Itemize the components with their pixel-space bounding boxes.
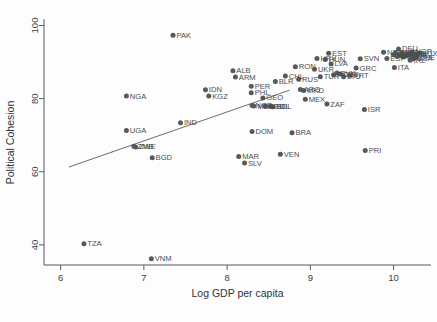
data-point-label: BGD — [156, 153, 173, 162]
data-point — [363, 148, 368, 153]
data-point — [242, 160, 247, 165]
plot-area: 406080100678910 TZAVNMNGAUGAZMBZWEBGDPAK… — [0, 0, 437, 322]
data-point-label: RUS — [302, 75, 318, 84]
data-point-label: PRI — [369, 146, 382, 155]
data-point — [318, 74, 323, 79]
data-point-label: MEX — [309, 95, 325, 104]
data-point-label: VNM — [155, 254, 172, 263]
y-tick-label: 60 — [30, 166, 41, 177]
data-point — [249, 90, 254, 95]
data-point-label: BOL — [276, 102, 291, 111]
data-point-label: EST — [332, 49, 347, 58]
x-tick-label: 9 — [308, 272, 313, 283]
x-tick-label: 6 — [58, 272, 63, 283]
data-point-label: RON — [299, 62, 316, 71]
data-point-label: DOM — [255, 127, 273, 136]
data-point-label: KGZ — [212, 92, 228, 101]
data-point — [81, 241, 86, 246]
data-point-label: IND — [184, 118, 198, 127]
data-point — [124, 94, 129, 99]
scatter-chart: 406080100678910 TZAVNMNGAUGAZMBZWEBGDPAK… — [0, 0, 437, 322]
data-point-label: ISR — [368, 105, 381, 114]
data-point-label: NGA — [130, 92, 147, 101]
data-point — [171, 33, 176, 38]
data-point — [381, 50, 386, 55]
data-point-label: VEN — [284, 150, 300, 159]
point-labels-group: TZAVNMNGAUGAZMBZWEBGDPAKINDIDNKGZALBARMM… — [87, 31, 437, 263]
data-point-label: ZWE — [139, 142, 156, 151]
data-point — [358, 56, 363, 61]
data-point — [150, 155, 155, 160]
data-point-label: LVA — [335, 59, 349, 68]
data-point — [314, 56, 319, 61]
x-axis-title: Log GDP per capita — [191, 287, 283, 299]
data-point — [203, 87, 208, 92]
data-point — [303, 97, 308, 102]
data-point-label: PAK — [176, 31, 191, 40]
data-point-label: SLV — [248, 159, 263, 168]
y-tick-label: 80 — [30, 93, 41, 104]
data-point — [278, 152, 283, 157]
data-point — [290, 130, 295, 135]
data-point — [250, 129, 255, 134]
data-point — [230, 68, 235, 73]
x-tick-label: 8 — [224, 272, 229, 283]
data-point — [362, 107, 367, 112]
y-axis-title: Political Cohesion — [4, 101, 16, 185]
data-point — [293, 64, 298, 69]
x-tick-label: 10 — [388, 272, 399, 283]
data-point — [392, 65, 397, 70]
data-point-label: ZAF — [330, 100, 345, 109]
data-point — [178, 120, 183, 125]
data-point-label: ARM — [239, 73, 256, 82]
data-point-label: ITA — [398, 63, 410, 72]
data-point-label: MKD — [307, 86, 324, 95]
data-point-label: BRA — [295, 128, 312, 137]
data-point-label: TZA — [87, 239, 102, 248]
data-point — [236, 154, 241, 159]
data-point — [324, 102, 329, 107]
data-point-label: UGA — [130, 126, 147, 135]
data-point — [273, 79, 278, 84]
data-point-label: ISL — [397, 50, 408, 59]
data-point-label: GRC — [359, 64, 376, 73]
x-tick-label: 7 — [141, 272, 146, 283]
data-point-label: SVN — [364, 54, 380, 63]
data-point — [124, 128, 129, 133]
data-point — [149, 256, 154, 261]
data-point-label: PRT — [354, 71, 369, 80]
y-tick-label: 100 — [30, 18, 41, 34]
data-point — [249, 84, 254, 89]
y-tick-label: 40 — [30, 240, 41, 251]
